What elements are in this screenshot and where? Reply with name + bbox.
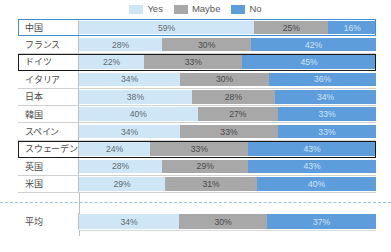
row-label: スウェーデン	[18, 141, 79, 157]
bar-segment-maybe: 30%	[162, 38, 251, 52]
row-bars: 38%28%34%	[79, 89, 376, 105]
table-row: 中国59%25%16%	[18, 19, 376, 36]
row-bars: 22%33%45%	[79, 54, 376, 70]
row-bars: 59%25%16%	[79, 20, 376, 35]
bar-segment-no: 43%	[248, 160, 376, 174]
bar-segment-no: 16%	[328, 21, 376, 34]
row-label: イタリア	[18, 71, 79, 87]
bar-segment-maybe: 33%	[180, 125, 278, 139]
bar-segment-maybe: 31%	[165, 177, 257, 191]
bar-segment-no: 45%	[242, 55, 376, 69]
bar-segment-maybe: 28%	[192, 90, 275, 104]
legend-label-no: No	[249, 4, 261, 14]
table-row: スペイン34%33%33%	[18, 123, 376, 140]
bar-segment-yes: 40%	[79, 107, 198, 121]
row-label: 日本	[18, 89, 79, 105]
table-row: 平均34%30%37%	[18, 213, 376, 230]
chart-rows: 中国59%25%16%フランス28%30%42%ドイツ22%33%45%イタリア…	[18, 19, 376, 230]
row-label: 中国	[18, 20, 79, 35]
table-row: スウェーデン24%33%43%	[18, 141, 376, 158]
table-row: フランス28%30%42%	[18, 36, 376, 53]
bar-segment-yes: 22%	[79, 55, 144, 69]
average-separator	[18, 193, 376, 213]
country-rows: 中国59%25%16%フランス28%30%42%ドイツ22%33%45%イタリア…	[18, 19, 376, 193]
legend-label-maybe: Maybe	[192, 4, 221, 14]
bar-segment-yes: 24%	[79, 142, 150, 156]
bar-segment-no: 42%	[251, 38, 376, 52]
bar-segment-no: 43%	[248, 142, 376, 156]
row-bars: 40%27%33%	[79, 106, 376, 122]
bar-segment-maybe: 33%	[144, 55, 242, 69]
bar-segment-maybe: 29%	[162, 160, 248, 174]
bar-segment-no: 37%	[267, 214, 376, 229]
average-row-container: 平均34%30%37%	[18, 213, 376, 230]
row-label: 英国	[18, 158, 79, 174]
bar-segment-maybe: 25%	[254, 21, 328, 34]
legend-item-maybe: Maybe	[174, 4, 221, 14]
bar-segment-no: 40%	[257, 177, 376, 191]
stacked-bar-chart: Yes Maybe No 中国59%25%16%フランス28%30%42%ドイツ…	[0, 0, 391, 252]
bar-segment-maybe: 33%	[150, 142, 248, 156]
bar-segment-yes: 28%	[79, 38, 162, 52]
row-bars: 24%33%43%	[79, 141, 376, 157]
legend-label-yes: Yes	[147, 4, 163, 14]
table-row: 米国29%31%40%	[18, 176, 376, 193]
category-axis-line	[79, 193, 80, 214]
bar-segment-yes: 38%	[79, 90, 192, 104]
bar-segment-yes: 28%	[79, 160, 162, 174]
row-label: 米国	[18, 176, 79, 192]
row-bars: 28%30%42%	[79, 36, 376, 52]
bar-segment-yes: 34%	[79, 214, 179, 229]
legend-item-no: No	[231, 4, 261, 14]
row-label: 平均	[18, 213, 79, 230]
table-row: ドイツ22%33%45%	[18, 54, 376, 71]
row-label: スペイン	[18, 123, 79, 139]
row-label: 韓国	[18, 106, 79, 122]
table-row: 日本38%28%34%	[18, 89, 376, 106]
bar-segment-no: 33%	[278, 125, 376, 139]
dashed-divider	[0, 202, 391, 203]
row-label: フランス	[18, 36, 79, 52]
bar-segment-yes: 34%	[79, 73, 180, 87]
bar-segment-maybe: 27%	[198, 107, 278, 121]
bar-segment-maybe: 30%	[180, 73, 269, 87]
bar-segment-no: 33%	[278, 107, 376, 121]
row-bars: 29%31%40%	[79, 176, 376, 192]
bar-segment-maybe: 30%	[179, 214, 267, 229]
bar-segment-yes: 34%	[79, 125, 180, 139]
legend-item-yes: Yes	[129, 4, 163, 14]
average-underline	[79, 230, 376, 231]
bar-segment-yes: 59%	[79, 21, 254, 34]
legend-swatch-yes-icon	[129, 5, 143, 14]
bar-segment-no: 36%	[269, 73, 376, 87]
row-bars: 34%30%37%	[79, 213, 376, 230]
table-row: 韓国40%27%33%	[18, 106, 376, 123]
row-bars: 34%33%33%	[79, 123, 376, 139]
row-bars: 34%30%36%	[79, 71, 376, 87]
bar-segment-yes: 29%	[79, 177, 165, 191]
legend-swatch-no-icon	[231, 5, 245, 14]
chart-legend: Yes Maybe No	[0, 2, 391, 16]
row-label: ドイツ	[18, 54, 79, 70]
axis-tail	[79, 230, 80, 236]
bar-segment-no: 34%	[275, 90, 376, 104]
row-bars: 28%29%43%	[79, 158, 376, 174]
table-row: 英国28%29%43%	[18, 158, 376, 175]
table-row: イタリア34%30%36%	[18, 71, 376, 88]
legend-swatch-maybe-icon	[174, 5, 188, 14]
